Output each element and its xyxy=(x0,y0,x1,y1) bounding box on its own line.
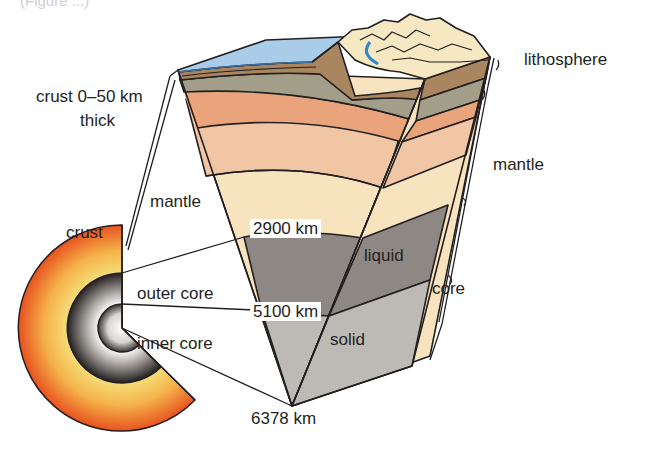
crust-label: crust xyxy=(66,224,103,241)
crust-thickness-label-line2: thick xyxy=(80,112,115,129)
liquid-label: liquid xyxy=(364,247,404,264)
mantle-left-label: mantle xyxy=(150,193,201,210)
core-right-label: core xyxy=(432,280,465,297)
outer-core-label: outer core xyxy=(137,285,214,302)
crust-thickness-label: crust 0–50 km xyxy=(36,88,143,105)
depth-6378-label: 6378 km xyxy=(251,410,316,427)
mantle-right-label: mantle xyxy=(493,156,544,173)
depth-2900-label: 2900 km xyxy=(250,219,321,238)
depth-5100-label: 5100 km xyxy=(250,302,321,321)
solid-label: solid xyxy=(330,331,365,348)
inner-core-label: inner core xyxy=(137,335,213,352)
lithosphere-label: lithosphere xyxy=(524,51,607,68)
earth-cross-section xyxy=(18,225,195,431)
